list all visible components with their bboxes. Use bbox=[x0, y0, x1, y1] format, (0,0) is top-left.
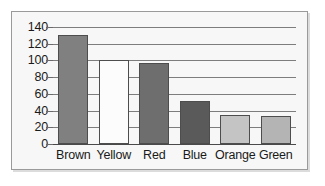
y-axis-tickmark bbox=[46, 77, 53, 78]
y-axis-tickmark bbox=[46, 60, 53, 61]
y-axis-tickmark bbox=[46, 44, 53, 45]
bar bbox=[99, 60, 129, 144]
y-axis-tickmark bbox=[46, 111, 53, 112]
bar bbox=[261, 116, 291, 144]
y-axis-tick-label: 100 bbox=[18, 54, 48, 67]
y-axis-tick-label: 120 bbox=[18, 37, 48, 50]
y-axis-tick-label: 140 bbox=[18, 21, 48, 34]
y-axis-tick-labels: 020406080100120140 bbox=[18, 12, 48, 169]
x-axis-category-label: Blue bbox=[175, 146, 216, 164]
x-axis-category-labels: BrownYellowRedBlueOrangeGreen bbox=[53, 146, 296, 166]
y-axis-tickmark bbox=[46, 144, 53, 145]
y-axis-tick-label: 60 bbox=[18, 88, 48, 101]
axis-baseline bbox=[53, 144, 296, 145]
chart-plot-wrapper: 020406080100120140 BrownYellowRedBlueOra… bbox=[12, 12, 307, 169]
bar bbox=[139, 63, 169, 144]
y-axis-tickmark bbox=[46, 127, 53, 128]
x-axis-category-label: Yellow bbox=[94, 146, 135, 164]
x-axis-category-label: Green bbox=[256, 146, 297, 164]
y-axis-tick-label: 80 bbox=[18, 71, 48, 84]
bar bbox=[180, 101, 210, 144]
y-axis-tickmark bbox=[46, 27, 53, 28]
x-axis-category-label: Brown bbox=[53, 146, 94, 164]
x-axis-category-label: Red bbox=[134, 146, 175, 164]
bar-series bbox=[53, 27, 296, 144]
y-axis-tickmark bbox=[46, 94, 53, 95]
y-axis-tick-label: 20 bbox=[18, 121, 48, 134]
plot-area bbox=[53, 27, 296, 144]
y-axis-tick-label: 0 bbox=[18, 138, 48, 151]
bar bbox=[58, 35, 88, 144]
bar bbox=[220, 115, 250, 144]
chart-frame: 020406080100120140 BrownYellowRedBlueOra… bbox=[11, 11, 308, 170]
x-axis-category-label: Orange bbox=[215, 146, 256, 164]
y-axis-tick-label: 40 bbox=[18, 104, 48, 117]
